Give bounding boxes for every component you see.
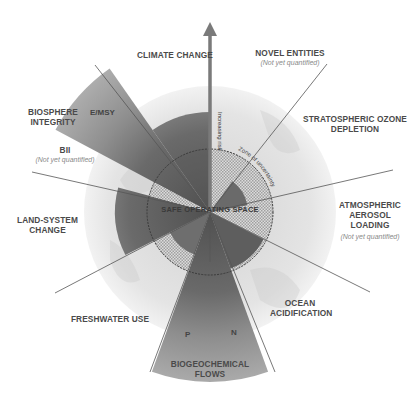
label-land-line2: CHANGE — [10, 225, 85, 235]
label-bii: BII — [40, 145, 90, 155]
label-land-line1: LAND-SYSTEM — [10, 215, 85, 225]
label-emsy: E/MSY — [90, 108, 115, 117]
note-novel-entities: (Not yet quantified) — [240, 58, 340, 67]
label-climate-change: CLIMATE CHANGE — [120, 50, 230, 60]
label-freshwater-use: FRESHWATER USE — [60, 314, 160, 324]
label-ozone-line2: DEPLETION — [300, 124, 410, 134]
safe-operating-space-label: SAFE OPERATING SPACE — [146, 205, 274, 214]
label-biosphere-line2: INTEGRITY — [28, 117, 78, 127]
label-biogeochemical-line1: BIOGEOCHEMICAL — [170, 359, 250, 369]
label-ocean-line1: OCEAN — [270, 298, 330, 308]
label-biosphere-line1: BIOSPHERE — [28, 107, 78, 117]
note-aerosol: (Not yet quantified) — [327, 232, 410, 241]
label-n: N — [231, 328, 237, 337]
label-aerosol-line1: ATMOSPHERIC — [330, 200, 410, 210]
label-novel-entities: NOVEL ENTITIES — [240, 48, 340, 58]
label-ozone-line1: STRATOSPHERIC OZONE — [300, 114, 410, 124]
increasing-risk-label: Increasing risk — [217, 112, 223, 152]
label-biogeochemical-line2: FLOWS — [170, 369, 250, 379]
note-bii: (Not yet quantified) — [25, 155, 105, 164]
label-p: P — [185, 330, 190, 339]
label-aerosol-line2: AEROSOL — [330, 210, 410, 220]
label-ocean-line2: ACIDIFICATION — [270, 308, 330, 318]
label-aerosol-line3: LOADING — [330, 220, 410, 230]
planetary-boundaries-diagram: Zone of uncertainty Increasing risk SAFE… — [0, 0, 410, 401]
